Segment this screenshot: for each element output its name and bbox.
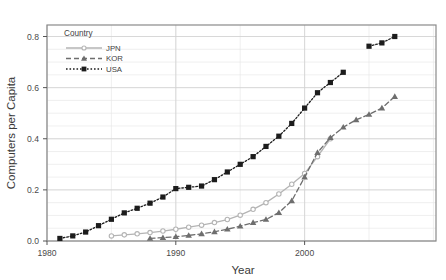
y-tick-label: 0.0 [27, 236, 39, 246]
data-point-square [276, 134, 281, 139]
data-point-triangle [288, 198, 295, 204]
x-tick-label: 2000 [295, 248, 314, 258]
legend-label: JPN [106, 44, 121, 53]
data-point-square [160, 194, 165, 199]
data-point-circle [82, 46, 86, 50]
data-point-square [212, 177, 217, 182]
y-axis-title: Computers per Capita [5, 76, 17, 189]
y-tick-label: 0.8 [27, 32, 39, 42]
data-point-circle [212, 220, 216, 224]
data-point-square [289, 121, 294, 126]
data-point-square [315, 90, 320, 95]
data-point-circle [290, 182, 294, 186]
data-point-square [70, 233, 75, 238]
data-point-circle [186, 225, 190, 229]
data-point-square [225, 169, 230, 174]
data-point-square [302, 105, 307, 110]
data-point-circle [277, 192, 281, 196]
data-point-circle [225, 217, 229, 221]
x-tick-label: 1990 [166, 248, 185, 258]
data-point-square [238, 162, 243, 167]
data-point-triangle [392, 93, 399, 99]
chart-figure: 198019902000 0.00.20.40.60.8 CountryJPNK… [0, 0, 446, 280]
x-tick-labels: 198019902000 [37, 248, 314, 258]
legend-label: KOR [106, 54, 123, 63]
data-point-square [57, 236, 62, 241]
data-point-square [199, 183, 204, 188]
data-point-square [379, 40, 384, 45]
data-point-circle [148, 230, 152, 234]
chart-legend[interactable]: CountryJPNKORUSA [64, 29, 123, 74]
data-point-square [263, 144, 268, 149]
data-point-square [147, 201, 152, 206]
series-line [60, 72, 343, 238]
data-point-circle [199, 223, 203, 227]
y-tick-labels: 0.00.20.40.60.8 [27, 32, 39, 246]
x-axis-title: Year [231, 264, 254, 276]
data-point-circle [264, 200, 268, 204]
data-point-circle [238, 213, 242, 217]
data-point-square [83, 229, 88, 234]
data-point-triangle [198, 231, 205, 237]
chart-canvas: 198019902000 0.00.20.40.60.8 CountryJPNK… [0, 0, 446, 280]
legend-item-usa[interactable]: USA [66, 65, 123, 74]
data-point-square [109, 217, 114, 222]
legend-item-jpn[interactable]: JPN [66, 44, 121, 53]
legend-title: Country [64, 29, 94, 38]
series-line [111, 139, 330, 236]
data-point-circle [135, 232, 139, 236]
y-tick-label: 0.4 [27, 134, 39, 144]
data-point-triangle [340, 124, 347, 130]
series-kor [147, 93, 398, 240]
data-point-square [122, 210, 127, 215]
data-point-circle [251, 207, 255, 211]
series-line [150, 97, 395, 239]
data-point-square [96, 223, 101, 228]
data-point-triangle [263, 216, 270, 222]
data-point-circle [109, 234, 113, 238]
data-point-square [173, 186, 178, 191]
x-tick-label: 1980 [37, 248, 56, 258]
data-point-circle [174, 227, 178, 231]
y-tick-label: 0.6 [27, 83, 39, 93]
data-point-square [250, 154, 255, 159]
data-point-square [341, 70, 346, 75]
data-point-square [82, 67, 87, 72]
y-tick-label: 0.2 [27, 185, 39, 195]
data-point-triangle [379, 105, 386, 111]
data-point-circle [161, 229, 165, 233]
data-point-square [186, 185, 191, 190]
data-point-square [135, 206, 140, 211]
data-point-square [392, 34, 397, 39]
data-point-square [328, 80, 333, 85]
data-point-circle [122, 233, 126, 237]
legend-label: USA [106, 65, 123, 74]
data-point-square [366, 44, 371, 49]
